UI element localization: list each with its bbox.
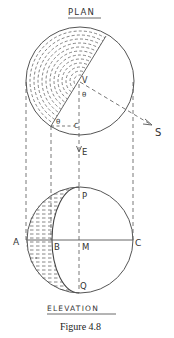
- label-b: B: [54, 242, 60, 252]
- label-theta-upper: θ: [82, 91, 86, 99]
- plan-title: PLAN: [68, 7, 95, 17]
- moon-phase-diagram: PLAN V θ θ C S E: [0, 0, 174, 338]
- label-c-elevation: C: [135, 238, 141, 248]
- label-theta-lower: θ: [56, 118, 60, 126]
- label-c-plan: C: [74, 122, 79, 130]
- plan-shaded-region: [30, 31, 130, 131]
- figure-caption: Figure 4.8: [60, 321, 101, 332]
- elevation-title: ELEVATION: [47, 304, 99, 313]
- label-p: P: [82, 191, 87, 201]
- label-m: M: [82, 242, 89, 252]
- label-q: Q: [80, 281, 87, 291]
- label-a: A: [13, 237, 20, 247]
- label-v: V: [82, 76, 88, 85]
- label-s: S: [155, 127, 161, 138]
- sun-direction-line: [80, 82, 150, 124]
- label-e: E: [82, 147, 87, 157]
- sun-arrowhead-icon: [143, 119, 152, 125]
